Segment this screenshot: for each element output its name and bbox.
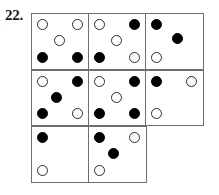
dot-bottom-left-open — [151, 52, 162, 63]
dot-top-left-open — [37, 19, 48, 30]
puzzle-grid-row — [31, 126, 207, 183]
dot-bottom-left-filled — [94, 52, 105, 63]
cell-r3c1[interactable] — [31, 126, 90, 183]
dot-bottom-left-open — [37, 165, 48, 176]
dot-top-left-filled — [94, 132, 105, 143]
dot-top-right-open — [186, 76, 197, 87]
dot-top-left-filled — [37, 132, 48, 143]
dot-bottom-left-filled — [37, 52, 48, 63]
dot-center-open — [54, 35, 65, 46]
dot-top-right-filled — [72, 76, 83, 87]
dot-bottom-right-open — [72, 108, 83, 119]
cell-r2c2[interactable] — [88, 70, 147, 127]
puzzle-grid-row — [31, 13, 207, 70]
dot-bottom-left-filled — [37, 108, 48, 119]
dot-top-left-open — [94, 19, 105, 30]
dot-bottom-left-open — [94, 165, 105, 176]
dot-top-left-open — [37, 76, 48, 87]
dot-center-open — [111, 92, 122, 103]
dot-top-right-filled — [129, 76, 140, 87]
dot-top-left-filled — [151, 19, 162, 30]
dot-center-filled — [172, 33, 183, 44]
cell-r2c1[interactable] — [31, 70, 90, 127]
dot-center-filled — [51, 92, 62, 103]
dot-bottom-right-filled — [72, 52, 83, 63]
question-number-label: 22. — [5, 8, 23, 23]
cell-r1c3[interactable] — [145, 13, 204, 70]
dot-center-filled — [108, 148, 119, 159]
dot-top-right-open — [129, 132, 140, 143]
cell-r3c3-missing — [145, 126, 204, 183]
dot-center-open — [111, 35, 122, 46]
dot-top-left-open — [94, 76, 105, 87]
dot-bottom-right-filled — [129, 108, 140, 119]
cell-r1c2[interactable] — [88, 13, 147, 70]
dot-bottom-left-filled — [94, 108, 105, 119]
dot-bottom-left-open — [151, 108, 162, 119]
dot-top-right-filled — [129, 19, 140, 30]
dot-top-left-filled — [151, 76, 162, 87]
cell-r1c1[interactable] — [31, 13, 90, 70]
puzzle-grid-row — [31, 70, 207, 127]
dot-bottom-right-open — [129, 52, 140, 63]
cell-r3c2[interactable] — [88, 126, 147, 183]
dot-top-right-open — [72, 19, 83, 30]
dot-matrix-puzzle-figure: 22. — [0, 0, 219, 195]
puzzle-grid — [31, 13, 207, 183]
cell-r2c3[interactable] — [145, 70, 204, 127]
